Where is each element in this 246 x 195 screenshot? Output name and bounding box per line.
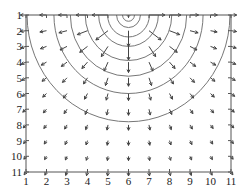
vector-arrow [170, 31, 180, 35]
quiver-contour-chart: 1234567891011 1234567891011 [0, 0, 246, 195]
x-tick-label: 7 [146, 175, 152, 187]
vector-arrows [20, 14, 236, 176]
vector-arrow [170, 94, 173, 100]
vector-arrow [127, 62, 130, 72]
x-tick-label: 8 [167, 175, 173, 187]
vector-arrow [77, 31, 87, 35]
vector-arrow [127, 94, 130, 101]
y-tick-label: 10 [11, 150, 23, 162]
vector-arrow [40, 46, 46, 49]
vector-arrow [211, 30, 218, 33]
y-tick-label: 3 [17, 40, 23, 52]
vector-arrow [43, 109, 46, 113]
vector-arrow [106, 125, 109, 130]
vector-arrow [60, 46, 67, 50]
vector-arrow [127, 31, 130, 47]
vector-arrow [85, 125, 88, 130]
vector-arrow [148, 156, 151, 160]
vector-arrow [105, 78, 108, 86]
x-tick-label: 2 [44, 175, 50, 187]
vector-arrow [63, 94, 67, 99]
vector-arrow [127, 46, 130, 60]
vector-arrow [104, 62, 108, 71]
vector-arrow [43, 94, 47, 98]
vector-arrow [211, 94, 215, 98]
vector-arrow [42, 78, 47, 81]
x-tick-label: 10 [205, 175, 217, 187]
x-tick-label: 6 [126, 175, 132, 187]
vector-arrow [149, 94, 152, 101]
vector-arrow [231, 93, 235, 96]
x-tick-label: 9 [187, 175, 193, 187]
vector-arrow [106, 94, 109, 101]
vector-arrow [106, 109, 109, 115]
x-axis: 1234567891011 [23, 15, 236, 187]
vector-arrow [190, 31, 198, 34]
y-tick-label: 11 [11, 166, 22, 178]
vector-arrow [86, 141, 89, 145]
vector-arrow [211, 109, 214, 113]
vector-arrow [65, 125, 68, 129]
vector-arrow [231, 14, 237, 17]
vector-arrow [169, 141, 172, 145]
vector-arrow [40, 30, 47, 33]
x-tick-label: 3 [64, 175, 70, 187]
vector-arrow [149, 78, 152, 86]
y-tick-label: 6 [17, 88, 23, 100]
vector-arrow [210, 141, 213, 144]
x-tick-label: 5 [105, 175, 111, 187]
x-tick-label: 4 [85, 175, 91, 187]
vector-arrow [65, 141, 68, 145]
vector-arrow [190, 46, 197, 50]
vector-arrow [231, 78, 235, 81]
vector-arrow [85, 109, 88, 114]
vector-arrow [148, 125, 151, 130]
vector-arrow [22, 78, 26, 81]
vector-arrow [59, 31, 67, 34]
vector-arrow [41, 62, 46, 65]
vector-arrow [65, 156, 68, 160]
vector-arrow [210, 125, 213, 129]
vector-arrow [127, 78, 130, 86]
vector-arrow [211, 78, 216, 81]
y-tick-label: 8 [17, 119, 23, 131]
y-tick-label: 5 [17, 72, 23, 84]
vector-arrow [170, 46, 178, 52]
vector-arrow [210, 156, 213, 159]
vector-arrow [61, 62, 67, 66]
y-tick-label: 4 [17, 56, 23, 68]
vector-arrow [169, 109, 172, 114]
vector-arrow [211, 46, 217, 49]
vector-arrow [45, 156, 48, 159]
vector-arrow [86, 156, 89, 160]
vector-arrow [190, 78, 195, 83]
vector-arrow [44, 125, 47, 129]
vector-arrow [148, 141, 151, 146]
vector-arrow [231, 30, 237, 33]
vector-arrow [190, 62, 196, 66]
vector-arrow [82, 62, 88, 68]
vector-arrow [85, 94, 88, 100]
vector-arrow [168, 156, 171, 160]
vector-arrow [106, 141, 109, 146]
vector-arrow [231, 62, 236, 65]
vector-arrow [106, 156, 109, 160]
y-tick-label: 1 [17, 9, 23, 21]
vector-arrow [211, 62, 216, 65]
vector-arrow [127, 125, 130, 130]
vector-arrow [189, 156, 192, 160]
vector-arrow [22, 93, 26, 96]
vector-arrow [190, 125, 193, 129]
y-tick-label: 9 [17, 135, 23, 147]
y-tick-label: 2 [17, 25, 23, 37]
x-tick-label: 11 [226, 175, 237, 187]
vector-arrow [148, 109, 151, 115]
vector-arrow [149, 62, 153, 71]
y-tick-label: 7 [17, 103, 23, 115]
vector-arrow [64, 109, 67, 113]
vector-arrow [231, 46, 236, 49]
vector-arrow [127, 109, 130, 115]
vector-arrow [190, 94, 194, 99]
vector-arrow [169, 125, 172, 130]
vector-arrow [127, 156, 130, 160]
